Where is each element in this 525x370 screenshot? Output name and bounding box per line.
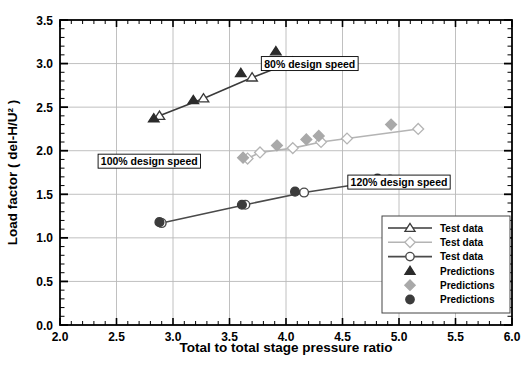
y-tick-label: 1.0 bbox=[36, 231, 53, 245]
data-point-test_120-2 bbox=[300, 188, 309, 197]
annotation-speed_80: 80% design speed bbox=[261, 57, 358, 71]
x-axis-title: Total to total stage pressure ratio bbox=[180, 340, 393, 355]
legend-marker-filled-circle bbox=[406, 295, 414, 303]
y-tick-label: 3.5 bbox=[36, 14, 53, 28]
x-tick-label: 5.5 bbox=[447, 330, 464, 344]
legend-label-0: Test data bbox=[440, 223, 484, 234]
legend-label-3: Predictions bbox=[440, 266, 495, 277]
legend-marker-open-circle bbox=[406, 252, 414, 260]
annotation-label-speed_100: 100% design speed bbox=[101, 155, 198, 167]
annotation-speed_120: 120% design speed bbox=[348, 175, 450, 189]
x-tick-label: 6.0 bbox=[504, 330, 521, 344]
chart-legend[interactable]: Test dataTest dataTest dataPredictionsPr… bbox=[382, 216, 510, 313]
annotation-label-speed_120: 120% design speed bbox=[351, 176, 448, 188]
y-axis-title: Load factor ( del-H/U² ) bbox=[5, 100, 20, 246]
y-tick-label: 2.0 bbox=[36, 144, 53, 158]
legend-label-4: Predictions bbox=[440, 280, 495, 291]
y-tick-label: 1.5 bbox=[36, 188, 53, 202]
annotation-speed_100: 100% design speed bbox=[98, 154, 200, 168]
x-tick-label: 5.0 bbox=[391, 330, 408, 344]
data-point-pred_120-2 bbox=[291, 187, 300, 196]
y-tick-label: 0.0 bbox=[36, 319, 53, 333]
legend-label-2: Test data bbox=[440, 251, 484, 262]
y-tick-label: 0.5 bbox=[36, 275, 53, 289]
x-tick-label: 2.0 bbox=[52, 330, 69, 344]
data-point-pred_120-0 bbox=[155, 218, 164, 227]
chart-figure: 2.02.53.03.54.04.55.05.56.00.00.51.01.52… bbox=[0, 0, 525, 370]
data-point-pred_120-1 bbox=[238, 200, 247, 209]
x-tick-label: 2.5 bbox=[108, 330, 125, 344]
y-tick-label: 2.5 bbox=[36, 101, 53, 115]
legend-label-5: Predictions bbox=[440, 294, 495, 305]
y-tick-label: 3.0 bbox=[36, 57, 53, 71]
load-factor-scatter-chart: 2.02.53.03.54.04.55.05.56.00.00.51.01.52… bbox=[0, 0, 525, 370]
annotation-label-speed_80: 80% design speed bbox=[264, 58, 355, 70]
legend-label-1: Test data bbox=[440, 237, 484, 248]
